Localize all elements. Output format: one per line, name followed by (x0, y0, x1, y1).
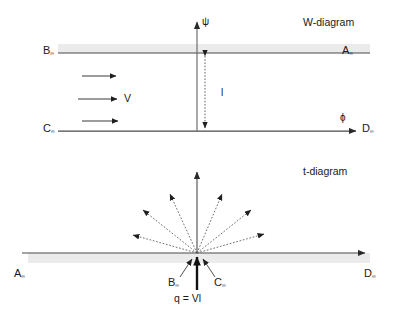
t-source-label-c-base: C (214, 276, 222, 288)
radial-dashed-arrow-6 (197, 234, 264, 253)
radial-dashed-arrow-1 (170, 194, 197, 253)
t-corner-label-d: D∞ (364, 268, 375, 279)
t-source-label-c-sub: ∞ (222, 282, 226, 288)
w-diagram-group (58, 22, 370, 131)
t-diagram-group (22, 172, 370, 290)
w-corner-label-c: C∞ (43, 123, 54, 134)
w-diagram-shaded-band (58, 44, 370, 53)
length-label: l (221, 88, 223, 98)
w-corner-label-d: D∞ (362, 123, 373, 134)
t-diagram-title: t-diagram (303, 166, 347, 177)
w-corner-label-c-sub: ∞ (51, 128, 55, 134)
w-corner-label-b: B∞ (43, 45, 54, 56)
t-source-label-b-sub: ∞ (175, 282, 179, 288)
w-corner-label-a-sub: ∞ (349, 50, 353, 56)
t-diagram-shaded-band (28, 253, 370, 263)
psi-axis-symbol: ψ (202, 17, 209, 27)
source-strength-equation: q = Vl (174, 293, 201, 304)
w-corner-label-c-base: C (43, 122, 51, 134)
t-source-label-b: B∞ (168, 277, 179, 288)
radial-dashed-arrow-3 (133, 235, 197, 253)
figure-canvas: W-diagram ψ ϕ B∞ A∞ C∞ D∞ V l t-diagram … (0, 0, 397, 310)
diagram-vector-layer (0, 0, 397, 310)
phi-axis-symbol: ϕ (340, 113, 346, 123)
t-corner-label-d-base: D (364, 267, 372, 279)
w-corner-label-d-sub: ∞ (370, 128, 374, 134)
w-corner-label-d-base: D (362, 122, 370, 134)
radial-dashed-arrow-5 (197, 210, 251, 253)
t-corner-label-a-sub: ∞ (21, 273, 25, 279)
w-diagram-title: W-diagram (303, 17, 354, 28)
t-corner-label-a: A∞ (14, 268, 25, 279)
w-corner-label-a: A∞ (342, 45, 353, 56)
t-corner-label-d-sub: ∞ (372, 273, 376, 279)
radial-dashed-arrow-4 (197, 194, 222, 253)
t-source-label-c: C∞ (214, 277, 225, 288)
velocity-label: V (124, 93, 131, 104)
w-corner-label-b-sub: ∞ (50, 50, 54, 56)
radial-dashed-arrow-2 (143, 210, 197, 253)
